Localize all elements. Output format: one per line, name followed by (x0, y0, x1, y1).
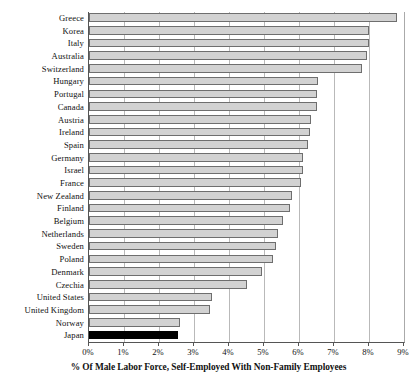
x-tick-label-7%: 7% (327, 347, 338, 358)
bar-australia (89, 51, 367, 60)
x-tick-mark-2% (158, 342, 159, 346)
bar-greece (89, 13, 397, 22)
bar-row (89, 253, 404, 266)
y-axis-label-netherlands: Netherlands (0, 228, 84, 241)
x-tick-label-2%: 2% (152, 347, 163, 358)
x-tick-label-5%: 5% (257, 347, 268, 358)
bar-row (89, 177, 404, 190)
x-tick-mark-3% (193, 342, 194, 346)
bar-row (89, 37, 404, 50)
bar-canada (89, 102, 317, 111)
y-axis-label-greece: Greece (0, 12, 84, 25)
y-axis-label-portugal: Portugal (0, 88, 84, 101)
x-tick-mark-5% (263, 342, 264, 346)
y-axis-label-sweden: Sweden (0, 240, 84, 253)
bar-row (89, 240, 404, 253)
y-axis-label-canada: Canada (0, 101, 84, 114)
bar-poland (89, 255, 273, 264)
bar-row (89, 25, 404, 38)
bar-row (89, 317, 404, 330)
bar-row (89, 152, 404, 165)
y-axis-labels: GreeceKoreaItalyAustraliaSwitzerlandHung… (0, 12, 84, 342)
bar-row (89, 12, 404, 25)
bar-row (89, 304, 404, 317)
x-tick-label-1%: 1% (117, 347, 128, 358)
y-axis-label-france: France (0, 177, 84, 190)
bar-row (89, 114, 404, 127)
bar-row (89, 126, 404, 139)
bar-row (89, 50, 404, 63)
bar-austria (89, 115, 311, 124)
y-axis-label-poland: Poland (0, 253, 84, 266)
bar-spain (89, 140, 308, 149)
bar-row (89, 101, 404, 114)
y-axis-label-new-zealand: New Zealand (0, 190, 84, 203)
bar-finland (89, 204, 290, 213)
x-tick-mark-6% (298, 342, 299, 346)
bar-denmark (89, 267, 262, 276)
bar-row (89, 266, 404, 279)
bar-united-states (89, 293, 212, 302)
x-tick-mark-7% (333, 342, 334, 346)
x-tick-mark-1% (123, 342, 124, 346)
bar-new-zealand (89, 191, 292, 200)
x-tick-mark-9% (403, 342, 404, 346)
x-tick-mark-0% (88, 342, 89, 346)
y-axis-label-hungary: Hungary (0, 75, 84, 88)
y-axis-label-switzerland: Switzerland (0, 63, 84, 76)
x-tick-label-3%: 3% (187, 347, 198, 358)
bar-row (89, 215, 404, 228)
bar-ireland (89, 128, 310, 137)
bar-germany (89, 153, 303, 162)
bar-israel (89, 166, 303, 175)
y-axis-label-korea: Korea (0, 25, 84, 38)
bar-row (89, 164, 404, 177)
bar-switzerland (89, 64, 362, 73)
bar-netherlands (89, 229, 278, 238)
bar-chart: GreeceKoreaItalyAustraliaSwitzerlandHung… (0, 0, 417, 386)
y-axis-label-ireland: Ireland (0, 126, 84, 139)
bar-hungary (89, 77, 318, 86)
x-axis-title: % Of Male Labor Force, Self-Employed Wit… (0, 362, 417, 372)
plot-area (88, 12, 405, 343)
bar-row (89, 190, 404, 203)
bar-france (89, 178, 301, 187)
y-axis-label-israel: Israel (0, 164, 84, 177)
y-axis-label-germany: Germany (0, 152, 84, 165)
bar-czechia (89, 280, 247, 289)
y-axis-label-japan: Japan (0, 329, 84, 342)
x-tick-label-9%: 9% (397, 347, 408, 358)
bar-row (89, 202, 404, 215)
y-axis-label-norway: Norway (0, 317, 84, 330)
x-tick-mark-8% (368, 342, 369, 346)
bar-rows (89, 12, 404, 342)
bar-row (89, 291, 404, 304)
y-axis-label-belgium: Belgium (0, 215, 84, 228)
bar-row (89, 75, 404, 88)
bar-norway (89, 318, 180, 327)
bar-korea (89, 26, 369, 35)
x-tick-label-4%: 4% (222, 347, 233, 358)
y-axis-label-australia: Australia (0, 50, 84, 63)
bar-belgium (89, 216, 283, 225)
x-tick-label-6%: 6% (292, 347, 303, 358)
y-axis-label-united-kingdom: United Kingdom (0, 304, 84, 317)
bar-italy (89, 39, 369, 48)
bar-united-kingdom (89, 305, 210, 314)
bar-row (89, 88, 404, 101)
y-axis-label-denmark: Denmark (0, 266, 84, 279)
y-axis-label-finland: Finland (0, 202, 84, 215)
x-tick-label-0%: 0% (82, 347, 93, 358)
y-axis-label-austria: Austria (0, 114, 84, 127)
y-axis-label-italy: Italy (0, 37, 84, 50)
y-axis-label-spain: Spain (0, 139, 84, 152)
bar-sweden (89, 242, 276, 251)
x-tick-label-8%: 8% (362, 347, 373, 358)
x-tick-mark-4% (228, 342, 229, 346)
y-axis-label-united-states: United States (0, 291, 84, 304)
bar-row (89, 279, 404, 292)
y-axis-label-czechia: Czechia (0, 279, 84, 292)
bar-portugal (89, 90, 317, 99)
bar-row (89, 329, 404, 342)
bar-row (89, 139, 404, 152)
